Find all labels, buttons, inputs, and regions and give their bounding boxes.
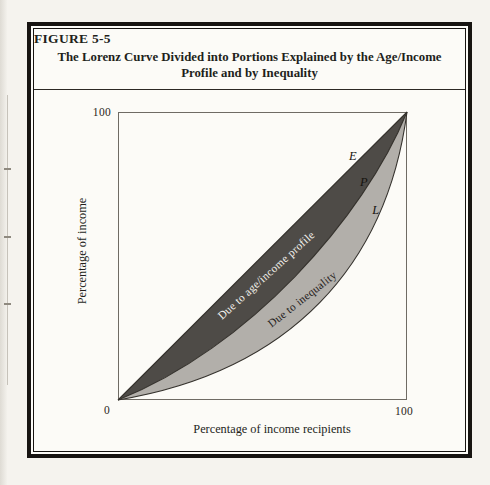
y-axis-tick-100: 100 xyxy=(78,106,111,118)
title-divider-rule xyxy=(34,89,465,90)
scan-artifact-mark xyxy=(4,303,11,305)
curve-E-equality-line xyxy=(118,112,407,400)
lorenz-chart-svg xyxy=(118,112,407,400)
curve-label-L: L xyxy=(372,203,379,218)
scan-artifact-mark xyxy=(4,236,11,238)
y-axis-title: Percentage of income xyxy=(75,198,90,305)
figure-title-line-2: Profile and by Inequality xyxy=(34,66,465,81)
plot-area: Due to age/income profile Due to inequal… xyxy=(118,112,407,400)
scanned-page: FIGURE 5-5 The Lorenz Curve Divided into… xyxy=(0,0,490,485)
x-axis-title: Percentage of income recipients xyxy=(193,422,350,437)
x-axis-tick-100: 100 xyxy=(389,405,419,417)
figure-title-line-1: The Lorenz Curve Divided into Portions E… xyxy=(34,50,465,65)
scan-artifact-line xyxy=(7,95,8,385)
scan-artifact-gutter xyxy=(0,0,7,485)
scan-artifact-mark xyxy=(4,168,11,170)
curve-label-P: P xyxy=(360,175,368,190)
figure-number: FIGURE 5-5 xyxy=(34,31,465,47)
curve-label-E: E xyxy=(349,149,357,164)
x-axis-tick-0: 0 xyxy=(100,404,114,416)
